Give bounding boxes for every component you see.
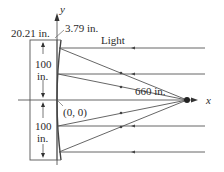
rim-height-label: 20.21 in. [11, 28, 50, 39]
rim-depth-label: 3.79 in. [65, 23, 98, 34]
lower-half-unit: in. [37, 133, 48, 144]
lower-half-value: 100 [35, 121, 52, 132]
parabolic-reflector-diagram [0, 0, 224, 172]
arrow-up-icon [41, 42, 45, 47]
light-label: Light [101, 35, 125, 46]
arrow-down-icon [41, 153, 45, 158]
y-axis-arrow-icon [55, 13, 60, 21]
x-axis-arrow-icon [191, 98, 198, 103]
arrow-up-icon [41, 102, 45, 107]
y-axis-label: y [60, 4, 65, 15]
origin-label: (0, 0) [63, 107, 87, 118]
upper-half-value: 100 [35, 59, 52, 70]
rim-depth-leader [55, 30, 64, 38]
upper-half-unit: in. [37, 71, 48, 82]
x-axis-label: x [206, 95, 211, 106]
arrow-down-icon [41, 93, 45, 98]
focal-distance-label: 660 in. [135, 86, 166, 97]
focal-point [184, 97, 190, 103]
